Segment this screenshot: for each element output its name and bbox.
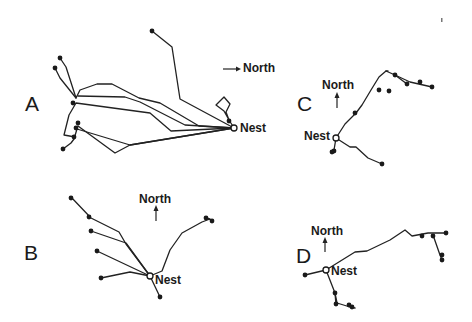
foraging-point-panel-b [158, 295, 163, 300]
foraging-point-panel-b [204, 216, 209, 221]
foraging-point-panel-d [334, 302, 339, 307]
foraging-path-panel-a [63, 128, 234, 149]
panel-label-b: B [24, 241, 38, 265]
foraging-point-panel-a [76, 121, 81, 126]
foraging-point-panel-d [420, 234, 425, 239]
north-arrow-icon [335, 92, 340, 108]
foraging-paths-figure: A North Nest B North Nest C North Nest D… [0, 0, 472, 322]
foraging-point-panel-b [99, 276, 104, 281]
nest-marker-panel-a [231, 125, 237, 131]
panel-label-d: D [296, 244, 311, 268]
foraging-point-panel-b [69, 196, 74, 201]
nest-label-a: Nest [240, 121, 266, 135]
foraging-path-panel-a [60, 58, 234, 128]
north-label-d: North [311, 224, 343, 238]
nest-label-b: Nest [155, 273, 181, 287]
foraging-point-panel-c [380, 162, 385, 167]
foraging-point-panel-d [440, 253, 445, 258]
north-label-b: North [139, 192, 171, 206]
north-arrow-icon [223, 67, 241, 72]
north-arrow-icon [154, 205, 159, 221]
foraging-point-panel-b [95, 249, 100, 254]
nest-label-d: Nest [331, 264, 357, 278]
foraging-point-panel-b [210, 219, 215, 224]
foraging-point-panel-a [53, 66, 58, 71]
foraging-point-panel-d [350, 305, 355, 310]
foraging-point-panel-d [431, 234, 436, 239]
foraging-point-panel-a [227, 119, 232, 124]
foraging-point-panel-c [353, 111, 358, 116]
foraging-point-panel-c [330, 150, 335, 155]
foraging-point-panel-a [74, 126, 79, 131]
north-label-c: North [322, 78, 354, 92]
foraging-point-panel-c [405, 82, 410, 87]
foraging-point-panel-d [303, 273, 308, 278]
foraging-point-panel-a [71, 101, 76, 106]
panel-label-c: C [297, 92, 312, 116]
foraging-point-panel-b [89, 229, 94, 234]
foraging-path-panel-b [150, 218, 212, 276]
foraging-path-panel-b [97, 251, 150, 276]
stray-mark [441, 18, 443, 22]
foraging-point-panel-d [444, 231, 449, 236]
foraging-path-panel-a [55, 68, 76, 98]
nest-label-c: Nest [304, 129, 330, 143]
nest-marker-panel-b [147, 273, 153, 279]
foraging-path-panel-b [71, 197, 150, 276]
foraging-point-panel-a [150, 29, 155, 34]
foraging-point-panel-c [387, 89, 392, 94]
north-label-a: North [243, 61, 275, 75]
foraging-path-panel-a [78, 96, 234, 128]
panel-label-a: A [25, 92, 39, 116]
foraging-path-panel-c [336, 138, 382, 164]
north-arrow-icon [323, 237, 328, 252]
nest-marker-panel-c [333, 135, 339, 141]
foraging-point-panel-b [87, 215, 92, 220]
foraging-point-panel-c [430, 85, 435, 90]
nest-marker-panel-d [323, 267, 329, 273]
foraging-point-panel-d [440, 258, 445, 263]
paths-canvas [0, 0, 472, 322]
foraging-path-panel-a [152, 31, 234, 128]
foraging-point-panel-c [377, 88, 382, 93]
foraging-point-panel-c [418, 80, 423, 85]
foraging-point-panel-a [61, 147, 66, 152]
foraging-point-panel-d [333, 291, 338, 296]
foraging-path-panel-b [91, 231, 150, 276]
foraging-point-panel-c [393, 73, 398, 78]
foraging-point-panel-a [72, 135, 77, 140]
foraging-path-panel-a [78, 126, 234, 153]
foraging-point-panel-a [58, 56, 63, 61]
